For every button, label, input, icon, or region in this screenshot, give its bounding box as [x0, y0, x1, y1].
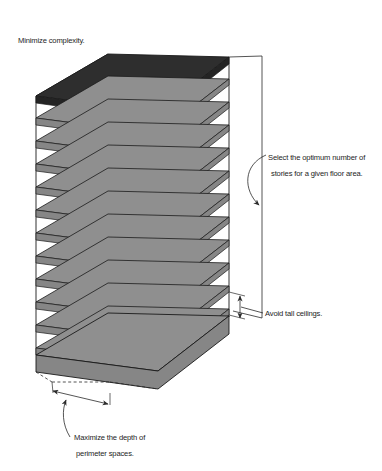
- maximize-depth-leader: [63, 400, 70, 437]
- floor-plate-stack: [36, 76, 229, 389]
- optimum-stories-leader: [248, 155, 266, 205]
- building-axonometric-svg: Minimize complexity. Select the optimum …: [0, 0, 382, 471]
- avoid-tall-ceilings-label: Avoid tall ceilings.: [265, 309, 322, 318]
- optimum-stories-label-line1: Select the optimum number of: [268, 153, 366, 162]
- maximize-depth-label-line2: perimeter spaces.: [76, 449, 134, 458]
- callout-avoid-tall-ceilings: Avoid tall ceilings.: [229, 292, 322, 319]
- diagram-canvas: Minimize complexity. Select the optimum …: [0, 0, 382, 471]
- ceiling-dim-guide-top: [229, 292, 245, 296]
- avoid-tall-ceilings-leader: [241, 307, 263, 313]
- callout-minimize-complexity: Minimize complexity.: [18, 36, 85, 45]
- maximize-depth-label-line1: Maximize the depth of: [74, 433, 146, 442]
- story-height-extension-line: [229, 56, 262, 318]
- callout-optimum-stories: Select the optimum number of stories for…: [229, 56, 366, 318]
- optimum-stories-label-line2: stories for a given floor area.: [271, 169, 363, 178]
- minimize-complexity-label: Minimize complexity.: [18, 36, 85, 45]
- building-mass: [36, 54, 229, 389]
- ceiling-dim-guide-bottom: [229, 315, 245, 319]
- depth-dim-tick-left: [52, 382, 53, 393]
- depth-dimension-arrow: [53, 391, 108, 404]
